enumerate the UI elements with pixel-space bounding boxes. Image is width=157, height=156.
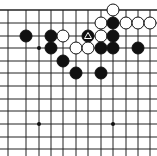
black-stone[interactable] (95, 67, 107, 79)
star-point (111, 122, 115, 126)
black-stone[interactable] (45, 42, 57, 54)
white-stone[interactable] (107, 4, 119, 16)
black-stone[interactable] (107, 17, 119, 29)
white-stone[interactable] (132, 17, 144, 29)
star-point (37, 46, 41, 50)
black-stone[interactable] (20, 30, 32, 42)
go-board-grid (0, 0, 157, 156)
black-stone[interactable] (132, 42, 144, 54)
go-board[interactable] (0, 0, 157, 156)
black-stone[interactable] (45, 30, 57, 42)
white-stone[interactable] (57, 30, 69, 42)
black-stone[interactable] (107, 42, 119, 54)
black-stone[interactable] (95, 42, 107, 54)
white-stone[interactable] (95, 17, 107, 29)
white-stone[interactable] (95, 30, 107, 42)
white-stone[interactable] (144, 17, 156, 29)
black-stone[interactable] (107, 30, 119, 42)
black-stone[interactable] (70, 67, 82, 79)
white-stone[interactable] (120, 17, 132, 29)
white-stone[interactable] (70, 42, 82, 54)
white-stone[interactable] (82, 42, 94, 54)
black-stone[interactable] (57, 55, 69, 67)
star-point (37, 122, 41, 126)
